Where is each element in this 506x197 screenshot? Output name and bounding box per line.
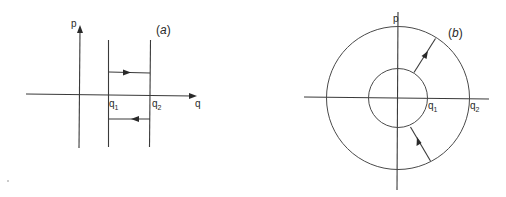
p-axis-label-b: p [393, 13, 399, 24]
panel-a-label: (a) [156, 23, 171, 37]
p-axis-arrowhead-icon [77, 25, 83, 33]
panel-a: p q q1 q2 (a) [26, 18, 201, 148]
q-axis-label: q [195, 98, 201, 109]
horizontal-axis [304, 97, 489, 99]
trajectory-inward [411, 127, 431, 161]
p-axis [79, 30, 80, 148]
print-speck [7, 180, 9, 182]
q-axis [26, 94, 193, 96]
arrow-right-icon [123, 70, 131, 76]
arrow-left-icon [131, 116, 139, 122]
q2-label: q2 [152, 98, 162, 111]
phase-space-diagram: p q q1 q2 (a) p q1 q2 (b) [0, 0, 506, 197]
q1-label: q1 [109, 98, 119, 111]
p-axis-label: p [71, 18, 77, 29]
panel-b-label: (b) [448, 26, 463, 40]
arrow-outward-icon [422, 51, 429, 59]
q2-label-b: q2 [470, 100, 480, 113]
vertical-axis [397, 12, 398, 190]
q1-label-b: q1 [428, 100, 438, 113]
panel-b: p q1 q2 (b) [304, 12, 489, 190]
wall-q2 [150, 40, 151, 147]
